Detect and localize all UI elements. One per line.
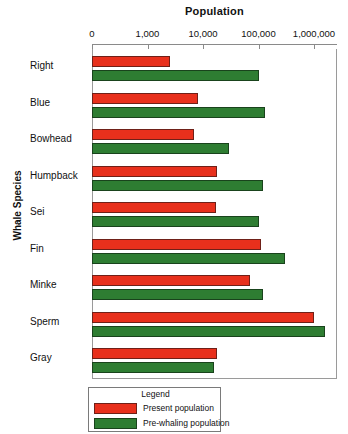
bar-sei-present bbox=[92, 202, 216, 213]
y-axis-title: Whale Species bbox=[12, 151, 23, 261]
bar-right-present bbox=[92, 56, 170, 67]
legend-label-present: Present population bbox=[143, 403, 214, 413]
bar-right-prewhaling bbox=[92, 70, 259, 81]
x-tick-label: 1,000,000 bbox=[279, 28, 348, 39]
category-label-minke: Minke bbox=[30, 279, 88, 290]
legend-swatch-prewhaling-icon bbox=[94, 418, 137, 429]
bar-fin-present bbox=[92, 239, 261, 250]
bar-blue-prewhaling bbox=[92, 107, 265, 118]
legend-title: Legend bbox=[89, 389, 222, 399]
legend: Legend Present population Pre-whaling po… bbox=[88, 387, 221, 432]
bar-humpback-present bbox=[92, 166, 217, 177]
category-label-fin: Fin bbox=[30, 243, 88, 254]
category-label-blue: Blue bbox=[30, 97, 88, 108]
bar-minke-prewhaling bbox=[92, 289, 263, 300]
category-label-right: Right bbox=[30, 60, 88, 71]
legend-label-prewhaling: Pre-whaling population bbox=[143, 418, 229, 428]
whale-population-chart: Population 01,00010,000100,0001,000,000 … bbox=[0, 0, 348, 434]
bar-fin-prewhaling bbox=[92, 253, 285, 264]
chart-title: Population bbox=[92, 5, 337, 17]
bar-bowhead-prewhaling bbox=[92, 143, 229, 154]
bar-sperm-present bbox=[92, 312, 314, 323]
category-label-sperm: Sperm bbox=[30, 316, 88, 327]
category-label-bowhead: Bowhead bbox=[30, 133, 88, 144]
bar-sei-prewhaling bbox=[92, 216, 259, 227]
category-label-gray: Gray bbox=[30, 352, 88, 363]
category-label-humpback: Humpback bbox=[30, 170, 88, 181]
bar-bowhead-present bbox=[92, 129, 194, 140]
category-label-sei: Sei bbox=[30, 206, 88, 217]
bar-minke-present bbox=[92, 275, 250, 286]
x-axis-line bbox=[92, 44, 337, 45]
bar-sperm-prewhaling bbox=[92, 326, 325, 337]
bar-gray-present bbox=[92, 348, 217, 359]
bar-humpback-prewhaling bbox=[92, 180, 263, 191]
bar-blue-present bbox=[92, 93, 198, 104]
bar-gray-prewhaling bbox=[92, 362, 214, 373]
legend-swatch-present-icon bbox=[94, 403, 137, 414]
